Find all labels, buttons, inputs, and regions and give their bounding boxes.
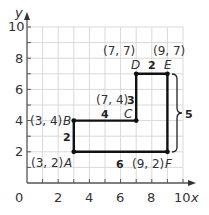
length-cd: 3 [127, 94, 135, 107]
x-tick-label: 10 [174, 190, 191, 205]
coord-label-e: (9, 7) [153, 44, 185, 58]
y-axis-label: y [14, 5, 23, 20]
y-tick-label: 6 [15, 82, 23, 97]
length-af: 6 [116, 158, 124, 171]
x-axis-label: x [190, 190, 199, 205]
point-f [165, 149, 170, 154]
point-label-b: B [63, 114, 71, 128]
point-label-f: F [165, 157, 173, 171]
x-tick-label: 2 [54, 190, 62, 205]
point-e [165, 71, 170, 76]
x-axis-arrow-icon [188, 180, 196, 186]
x-tick-label: 6 [116, 190, 124, 205]
point-d [134, 71, 139, 76]
coordinate-graph: 0 2 4 6 8 10 x 2 4 6 8 10 y (3, 2) A (3,… [0, 0, 209, 215]
length-de: 2 [148, 59, 156, 72]
length-bc: 4 [101, 108, 109, 121]
point-b [71, 118, 76, 123]
coord-label-c: (7, 4) [96, 93, 128, 107]
coord-label-d: (7, 7) [103, 44, 135, 58]
point-label-e: E [164, 58, 172, 72]
brace-ef [172, 74, 182, 152]
y-axis-arrow-icon [24, 12, 30, 20]
coord-label-b: (3, 4) [30, 114, 62, 128]
y-tick-label: 2 [15, 144, 23, 159]
point-a [71, 149, 76, 154]
point-c [134, 118, 139, 123]
coord-label-f: (9, 2) [132, 157, 164, 171]
length-ab: 2 [63, 131, 71, 144]
x-tick-label: 8 [147, 190, 155, 205]
y-tick-label: 8 [15, 51, 23, 66]
length-ef: 5 [185, 108, 193, 121]
point-label-a: A [63, 156, 72, 170]
y-tick-label: 10 [8, 19, 25, 34]
y-tick-label: 4 [15, 113, 23, 128]
x-tick-label: 4 [85, 190, 93, 205]
origin-label: 0 [15, 190, 23, 205]
point-label-d: D [131, 58, 140, 72]
point-label-c: C [124, 107, 133, 121]
coord-label-a: (3, 2) [31, 156, 63, 170]
